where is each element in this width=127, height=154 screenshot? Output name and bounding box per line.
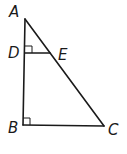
triangle-diagram: A D E B C bbox=[0, 0, 127, 154]
right-angle-marker-b bbox=[23, 118, 30, 125]
segment-bc bbox=[23, 125, 104, 126]
segment-ab bbox=[23, 19, 25, 125]
label-a: A bbox=[8, 3, 19, 21]
label-c: C bbox=[108, 121, 119, 139]
segment-ac bbox=[25, 19, 104, 126]
label-e: E bbox=[58, 46, 68, 64]
label-b: B bbox=[8, 119, 18, 137]
right-angle-marker-d bbox=[25, 46, 32, 53]
label-d: D bbox=[8, 44, 20, 62]
